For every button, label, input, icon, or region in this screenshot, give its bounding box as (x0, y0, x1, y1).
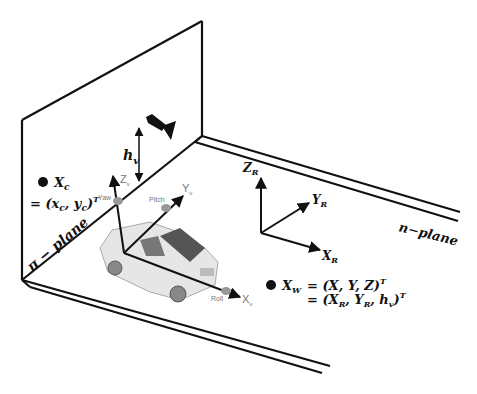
world-point-name: XW (281, 278, 302, 295)
vehicle-z-axis-label: Zv (120, 173, 130, 187)
world-point-equation-line1: = (X, Y, Z)T (307, 276, 387, 293)
pitch-label: Pitch (149, 196, 165, 203)
yaw-rotation-icon (113, 197, 123, 205)
vehicle-x-axis-label: Xv (242, 293, 252, 307)
camera-point-name: Xc (53, 175, 70, 192)
camera-icon (146, 114, 176, 140)
road-axes (261, 178, 320, 250)
ground-edges (22, 136, 460, 373)
road-x-axis-label: XR (321, 249, 338, 265)
road-y-axis-label: YR (312, 193, 328, 209)
camera-height-label: hv (123, 147, 139, 166)
vehicle-y-axis-label: Yv (182, 182, 192, 196)
camera-point-bullet (38, 177, 48, 187)
world-point-bullet (266, 280, 276, 290)
road-z-axis-label: ZR (242, 161, 259, 177)
roll-rotation-icon (221, 287, 231, 295)
camera-point-equation: = (xc, yc)T (30, 194, 100, 213)
yaw-label: Yaw (98, 194, 112, 201)
pi-plane-label: π − plane (23, 214, 92, 275)
vehicle-illustration (100, 222, 218, 302)
roll-label: Roll (211, 295, 224, 302)
n-plane-label: n−plane (397, 219, 459, 248)
camera-geometry-diagram: π − plane n−plane hv Zv Yv Xv Yaw Pitch … (0, 0, 477, 394)
pitch-rotation-icon (161, 204, 171, 212)
world-point-equation-line2: = (XR, YR, hv)T (307, 290, 407, 309)
